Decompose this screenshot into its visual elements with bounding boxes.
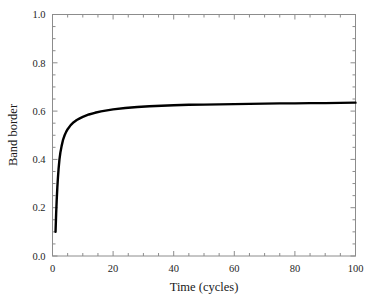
x-tick-label: 100: [348, 263, 364, 274]
x-tick-label: 60: [229, 263, 240, 274]
y-tick-label: 0.8: [32, 58, 45, 69]
x-axis-title: Time (cycles): [170, 280, 239, 294]
band-border-line-chart: 020406080100 0.00.20.40.60.81.0 Time (cy…: [0, 0, 371, 298]
x-tick-label: 0: [50, 263, 55, 274]
y-axis-title: Band border: [6, 103, 20, 166]
y-tick-label: 0.0: [32, 251, 45, 262]
y-tick-label: 1.0: [32, 9, 45, 20]
figure-background: [0, 0, 371, 298]
y-tick-label: 0.6: [32, 106, 45, 117]
x-tick-label: 80: [290, 263, 301, 274]
x-tick-label: 40: [168, 263, 179, 274]
y-tick-label: 0.4: [32, 154, 46, 165]
y-tick-label: 0.2: [32, 202, 45, 213]
chart-figure: 020406080100 0.00.20.40.60.81.0 Time (cy…: [0, 0, 371, 298]
x-tick-label: 20: [108, 263, 119, 274]
